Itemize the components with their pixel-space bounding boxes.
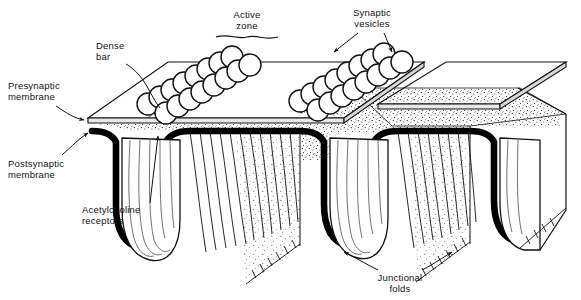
postsynaptic-label-line1: Postsynaptic xyxy=(8,158,64,169)
neuromuscular-junction-diagram: Active zone Synaptic vesicles Dense bar … xyxy=(0,0,581,300)
label-postsynaptic-membrane: Postsynaptic membrane xyxy=(8,133,88,180)
figure-canvas: Active zone Synaptic vesicles Dense bar … xyxy=(0,0,581,300)
acetylcholine-label-line2: receptors xyxy=(82,215,123,226)
label-presynaptic-membrane: Presynaptic membrane xyxy=(8,80,84,120)
active-zone-label-line2: zone xyxy=(236,20,257,31)
presynaptic-label-line1: Presynaptic xyxy=(8,80,60,91)
postsynaptic-label-line2: membrane xyxy=(8,169,55,180)
dense-bar-label-line1: Dense xyxy=(96,40,124,51)
active-zone-label-line1: Active xyxy=(233,9,260,20)
junctional-fold-1 xyxy=(122,138,180,261)
vesicles-leader-1 xyxy=(334,33,358,52)
fold-cavity-1-shade xyxy=(236,134,300,286)
synaptic-vesicles-label-line1: Synaptic xyxy=(353,7,391,18)
presynaptic-label-line2: membrane xyxy=(8,91,55,102)
synaptic-vesicles-label-line2: vesicles xyxy=(354,18,389,29)
postsynaptic-leader xyxy=(62,133,88,155)
junctional-fold-3 xyxy=(500,138,540,250)
label-active-zone: Active zone xyxy=(216,9,278,38)
junctional-folds-label-line1: Junctional xyxy=(378,272,423,283)
dense-bar-label-line2: bar xyxy=(96,51,110,62)
presynaptic-leader xyxy=(56,106,84,120)
junctional-fold-2 xyxy=(330,138,388,259)
acetylcholine-label-line1: Acetylcholine xyxy=(82,204,141,215)
junctional-folds-label-line2: folds xyxy=(389,283,410,294)
active-zone-brace xyxy=(216,36,278,39)
